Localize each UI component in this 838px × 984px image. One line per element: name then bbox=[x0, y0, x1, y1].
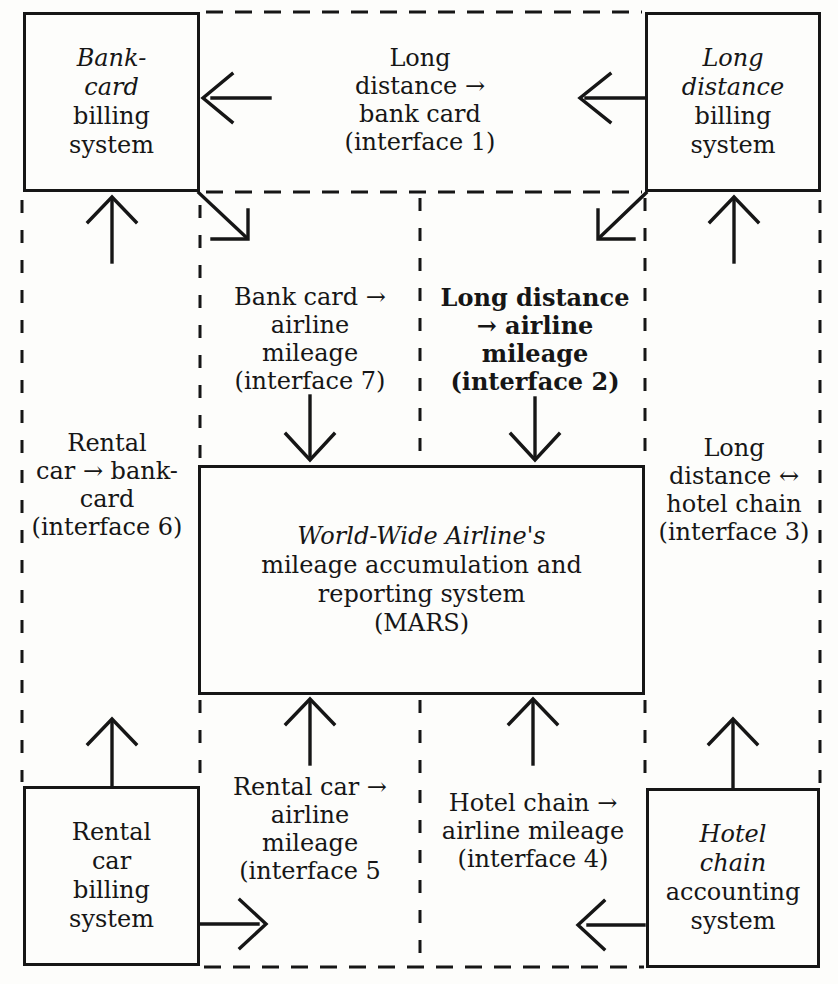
label-text-line: mileage bbox=[234, 339, 386, 367]
box-text-line: Hotel bbox=[700, 820, 767, 849]
interface2-label: Long distance → airline mileage (interfa… bbox=[441, 284, 630, 396]
label-text-line: (interface 5 bbox=[233, 857, 387, 885]
label-text-line: airline bbox=[234, 311, 386, 339]
box-text-line: system bbox=[69, 905, 154, 934]
label-text-line: Long bbox=[659, 434, 810, 462]
label-text-line: distance → bbox=[345, 72, 496, 100]
label-text-line: airline bbox=[233, 801, 387, 829]
arrow-hotelchain-up bbox=[709, 719, 757, 788]
label-text-line: (interface 1) bbox=[345, 128, 496, 156]
label-text-line: Rental bbox=[32, 429, 183, 457]
arrow-into-bankcard-bottom bbox=[88, 197, 136, 262]
arrow-interface2-into-mars bbox=[511, 398, 559, 460]
label-text-line: car → bank- bbox=[32, 457, 183, 485]
hotel-chain-accounting-system-box: Hotel chain accounting system bbox=[646, 788, 820, 968]
label-text-line: airline mileage bbox=[442, 817, 624, 845]
rental-car-billing-system-box: Rental car billing system bbox=[23, 786, 200, 966]
interface1-label: Long distance → bank card (interface 1) bbox=[345, 44, 496, 156]
interface6-label: Rental car → bank- card (interface 6) bbox=[32, 429, 183, 541]
arrow-rentalcar-out-right bbox=[201, 900, 266, 948]
box-text-line: (MARS) bbox=[374, 609, 469, 638]
arrow-into-bankcard-right bbox=[203, 74, 270, 122]
box-text-line: accounting bbox=[666, 878, 801, 907]
arrow-into-longdistance-bottom bbox=[710, 197, 758, 262]
mars-interface-diagram: Bank- card billing system Long distance … bbox=[0, 0, 838, 984]
label-text-line: (interface 6) bbox=[32, 513, 183, 541]
label-text-line: (interface 7) bbox=[234, 367, 386, 395]
interface4-label: Hotel chain → airline mileage (interface… bbox=[442, 789, 624, 873]
box-text-line: distance bbox=[682, 73, 784, 102]
label-text-line: distance ↔ bbox=[659, 462, 810, 490]
label-text-line: Hotel chain → bbox=[442, 789, 624, 817]
box-text-line: card bbox=[84, 73, 139, 102]
label-text-line: hotel chain bbox=[659, 490, 810, 518]
box-text-line: chain bbox=[700, 849, 766, 878]
label-text-line: (interface 2) bbox=[441, 368, 630, 396]
mars-system-box: World-Wide Airline's mileage accumulatio… bbox=[198, 465, 645, 695]
label-text-line: Long distance bbox=[441, 284, 630, 312]
interface7-label: Bank card → airline mileage (interface 7… bbox=[234, 283, 386, 395]
box-text-line: system bbox=[691, 907, 776, 936]
label-text-line: Bank card → bbox=[234, 283, 386, 311]
label-text-line: (interface 3) bbox=[659, 518, 810, 546]
arrow-diagonal-longdistance-corner bbox=[598, 193, 646, 239]
box-text-line: Long bbox=[702, 44, 763, 73]
arrow-longdistance-out-left bbox=[580, 74, 646, 122]
label-text-line: bank card bbox=[345, 100, 496, 128]
box-text-line: World-Wide Airline's bbox=[297, 522, 545, 551]
long-distance-billing-system-box: Long distance billing system bbox=[645, 12, 821, 192]
box-text-line: system bbox=[69, 131, 154, 160]
box-text-line: Bank- bbox=[77, 44, 147, 73]
label-text-line: Rental car → bbox=[233, 773, 387, 801]
label-text-line: mileage bbox=[233, 829, 387, 857]
label-text-line: (interface 4) bbox=[442, 845, 624, 873]
label-text-line: mileage bbox=[441, 340, 630, 368]
box-text-line: car bbox=[92, 847, 131, 876]
arrow-diagonal-bankcard-corner bbox=[199, 193, 248, 239]
interface3-label: Long distance ↔ hotel chain (interface 3… bbox=[659, 434, 810, 546]
arrow-interface4-into-mars bbox=[509, 699, 557, 764]
bank-card-billing-system-box: Bank- card billing system bbox=[23, 12, 200, 192]
label-text-line: → airline bbox=[441, 312, 630, 340]
arrow-rentalcar-up bbox=[88, 719, 136, 786]
box-text-line: system bbox=[691, 131, 776, 160]
box-text-line: mileage accumulation and bbox=[261, 551, 582, 580]
label-text-line: Long bbox=[345, 44, 496, 72]
box-text-line: reporting system bbox=[318, 580, 526, 609]
box-text-line: billing bbox=[73, 102, 150, 131]
box-text-line: Rental bbox=[72, 818, 151, 847]
box-text-line: billing bbox=[695, 102, 772, 131]
box-text-line: billing bbox=[73, 876, 150, 905]
arrow-interface5-into-mars bbox=[286, 699, 334, 764]
label-text-line: card bbox=[32, 485, 183, 513]
arrow-hotelchain-out-left bbox=[578, 901, 644, 949]
arrow-interface7-into-mars bbox=[286, 396, 334, 460]
interface5-label: Rental car → airline mileage (interface … bbox=[233, 773, 387, 885]
